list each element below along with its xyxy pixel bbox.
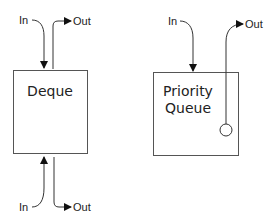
- deque-top-in-arrow: [32, 20, 44, 68]
- deque-bottom-out-label: Out: [73, 201, 91, 213]
- deque-top-out-arrow: [53, 21, 71, 69]
- priority-queue-title-line1: Priority: [163, 83, 213, 99]
- priority-queue-in-label: In: [168, 15, 177, 27]
- deque-bottom-out-arrow: [54, 157, 71, 207]
- priority-queue-out-label: Out: [245, 18, 263, 30]
- deque-title: Deque: [27, 83, 73, 99]
- deque-bottom-in-arrow: [32, 157, 44, 207]
- diagram-canvas: Deque In Out In Out Priority Queue In Ou…: [0, 0, 279, 217]
- deque-group: Deque In Out In Out: [14, 14, 91, 213]
- deque-bottom-in-label: In: [19, 201, 28, 213]
- deque-top-out-label: Out: [73, 15, 91, 27]
- priority-queue-group: Priority Queue In Out: [154, 15, 263, 156]
- deque-top-in-label: In: [19, 14, 28, 26]
- priority-queue-in-arrow: [180, 21, 193, 71]
- priority-queue-title-line2: Queue: [165, 100, 211, 116]
